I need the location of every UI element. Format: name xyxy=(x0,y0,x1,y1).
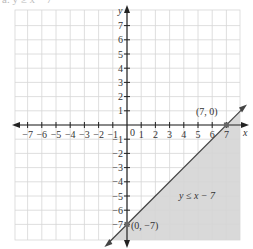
y-tick-label: −6 xyxy=(112,205,123,216)
y-tick-label: −4 xyxy=(112,176,123,187)
x-tick-label: −5 xyxy=(51,129,62,140)
y-tick-label: 5 xyxy=(118,49,123,60)
graph-container: a. y ≥ x − 7 −7−6−5−4−3−2−11234567765432… xyxy=(0,0,253,249)
y-tick-label: 7 xyxy=(118,20,123,31)
y-axis-down-arrow-icon xyxy=(124,240,130,248)
x-tick-label: −3 xyxy=(79,129,90,140)
plotted-point xyxy=(125,222,130,227)
y-tick-label: −1 xyxy=(112,134,123,145)
y-axis-up-arrow-icon xyxy=(124,5,130,13)
x-tick-label: 3 xyxy=(167,129,172,140)
x-tick-label: 4 xyxy=(181,129,186,140)
clipped-header-label: a. y ≥ x − 7 xyxy=(2,0,52,5)
x-tick-label: 5 xyxy=(196,129,201,140)
x-tick-label: −2 xyxy=(93,129,104,140)
y-tick-label: 3 xyxy=(118,77,123,88)
y-tick-label: 6 xyxy=(118,34,123,45)
x-tick-label: −6 xyxy=(36,129,47,140)
y-tick-label: 1 xyxy=(118,105,123,116)
x-tick-label: −4 xyxy=(65,129,76,140)
coordinate-plane: −7−6−5−4−3−2−112345677654321−1−2−3−4−5−6… xyxy=(0,0,253,249)
point-label-7-0: (7, 0) xyxy=(196,106,218,118)
x-tick-label: 2 xyxy=(153,129,158,140)
point-label-0-neg7: (0, −7) xyxy=(131,220,158,232)
y-tick-label: −3 xyxy=(112,162,123,173)
x-tick-label: 7 xyxy=(224,129,229,140)
origin-label: 0 xyxy=(130,127,135,138)
y-axis-label: y xyxy=(117,5,123,16)
inequality-label: y ≤ x − 7 xyxy=(178,190,216,201)
y-tick-label: 4 xyxy=(118,63,123,74)
y-tick-label: −7 xyxy=(112,219,123,230)
x-axis-left-arrow-icon xyxy=(12,122,20,128)
y-tick-label: −2 xyxy=(112,148,123,159)
x-tick-label: 1 xyxy=(139,129,144,140)
plotted-point xyxy=(224,123,229,128)
y-tick-label: 2 xyxy=(118,91,123,102)
y-tick-label: −5 xyxy=(112,191,123,202)
x-axis-label: x xyxy=(242,127,248,138)
x-tick-label: −7 xyxy=(22,129,33,140)
